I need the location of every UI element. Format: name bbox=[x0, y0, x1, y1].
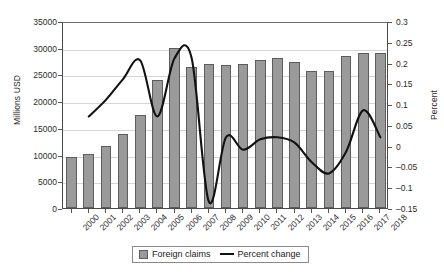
y-axis-left-tickmark bbox=[58, 209, 62, 210]
x-axis-tick-label: 2005 bbox=[166, 212, 186, 232]
line-swatch-icon bbox=[220, 253, 234, 255]
y-axis-right-tick-label: –0.1 bbox=[396, 183, 438, 193]
plot-area bbox=[62, 22, 388, 209]
legend-label-foreign-claims: Foreign claims bbox=[152, 249, 211, 259]
y-axis-right-tick-label: 0.2 bbox=[396, 59, 438, 69]
legend-item-foreign-claims: Foreign claims bbox=[139, 249, 211, 259]
x-axis-tick-label: 2016 bbox=[355, 212, 375, 232]
x-axis-tick-label: 2014 bbox=[320, 212, 340, 232]
chart-container: Millions USD Percent 0500010000150002000… bbox=[0, 0, 444, 275]
y-axis-right-tick-label: 0 bbox=[396, 142, 438, 152]
y-axis-left-tick-label: 30000 bbox=[15, 44, 57, 54]
y-axis-right-tick-label: 0.25 bbox=[396, 38, 438, 48]
y-axis-left-tick-label: 35000 bbox=[15, 17, 57, 27]
x-axis-tick-label: 2009 bbox=[235, 212, 255, 232]
y-axis-right-tick-label: 0.15 bbox=[396, 79, 438, 89]
line-series bbox=[63, 23, 389, 210]
x-axis-tick-label: 2015 bbox=[337, 212, 357, 232]
percent-change-line bbox=[89, 45, 381, 203]
y-axis-right-tick-label: 0.05 bbox=[396, 121, 438, 131]
x-axis-tick-label: 2000 bbox=[80, 212, 100, 232]
y-axis-right-tick-label: 0.3 bbox=[396, 17, 438, 27]
y-axis-right-tick-label: –0.05 bbox=[396, 162, 438, 172]
bar-swatch-icon bbox=[139, 250, 148, 259]
x-axis-tick-label: 2011 bbox=[269, 212, 289, 232]
y-axis-left-tick-label: 10000 bbox=[15, 151, 57, 161]
x-axis-tick-label: 2003 bbox=[132, 212, 152, 232]
legend-item-percent-change: Percent change bbox=[220, 249, 301, 259]
x-axis-tick-label: 2001 bbox=[97, 212, 117, 232]
x-axis-tick-label: 2012 bbox=[286, 212, 306, 232]
y-axis-left-tick-label: 25000 bbox=[15, 70, 57, 80]
x-axis-tick-label: 2004 bbox=[149, 212, 169, 232]
y-axis-left-tick-label: 20000 bbox=[15, 97, 57, 107]
y-axis-left-tick-label: 5000 bbox=[15, 177, 57, 187]
x-axis-tick-label: 2006 bbox=[183, 212, 203, 232]
chart-legend: Foreign claims Percent change bbox=[132, 246, 309, 263]
x-axis-tick-label: 2002 bbox=[114, 212, 134, 232]
x-axis-tick-label: 2008 bbox=[217, 212, 237, 232]
legend-label-percent-change: Percent change bbox=[238, 249, 301, 259]
y-axis-left-tick-label: 15000 bbox=[15, 124, 57, 134]
x-axis-tick-label: 2018 bbox=[389, 212, 409, 232]
x-axis-tick-label: 2007 bbox=[200, 212, 220, 232]
y-axis-left-tick-label: 0 bbox=[15, 204, 57, 214]
x-axis-tick-label: 2017 bbox=[372, 212, 392, 232]
y-axis-right-tick-label: 0.1 bbox=[396, 100, 438, 110]
x-axis-tick-label: 2013 bbox=[303, 212, 323, 232]
